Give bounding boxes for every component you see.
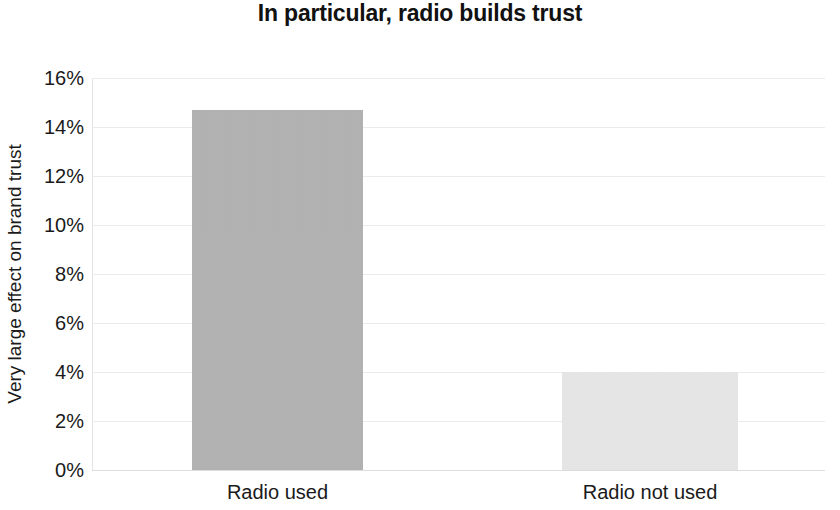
gridline-16% (92, 78, 825, 79)
bar-texture (192, 110, 363, 470)
plot-area (92, 78, 825, 470)
bar-radio-used[interactable] (192, 110, 363, 470)
bar-texture (562, 372, 738, 470)
x-tick-label: Radio used (192, 480, 363, 504)
gridline-0% (92, 470, 825, 471)
x-axis-tick-labels: Radio usedRadio not used (92, 480, 825, 510)
y-tick-label: 16% (2, 68, 84, 88)
y-tick-label: 0% (2, 460, 84, 480)
y-tick-label: 6% (2, 313, 84, 333)
y-tick-label: 8% (2, 264, 84, 284)
y-tick-label: 10% (2, 215, 84, 235)
chart-title: In particular, radio builds trust (0, 0, 840, 29)
x-tick-label: Radio not used (562, 480, 738, 504)
y-tick-label: 12% (2, 166, 84, 186)
y-tick-label: 14% (2, 117, 84, 137)
bar-radio-not-used[interactable] (562, 372, 738, 470)
y-tick-label: 2% (2, 411, 84, 431)
y-tick-label: 4% (2, 362, 84, 382)
